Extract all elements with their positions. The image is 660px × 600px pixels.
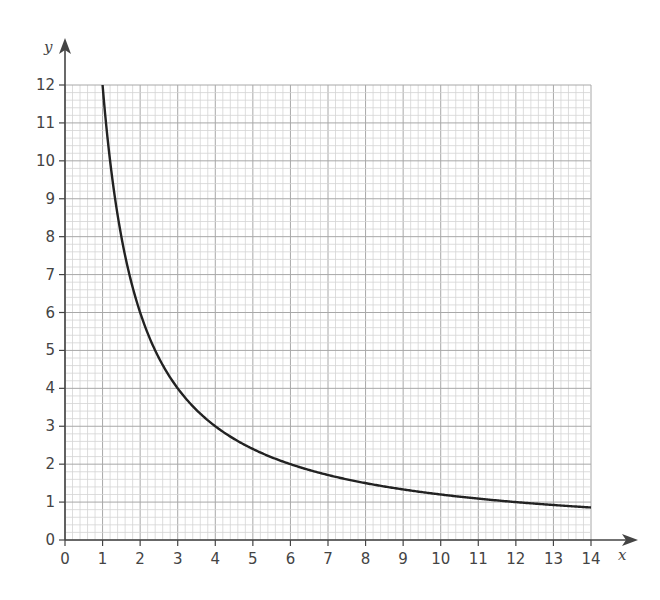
- y-tick-label: 1: [45, 493, 55, 511]
- x-tick-label: 14: [581, 550, 600, 568]
- axes: [59, 38, 638, 546]
- y-tick-label: 4: [45, 379, 55, 397]
- grid: [65, 85, 591, 540]
- x-tick-label: 2: [135, 550, 145, 568]
- x-axis-label: x: [618, 546, 627, 564]
- y-tick-label: 7: [45, 266, 55, 284]
- x-tick-label: 5: [248, 550, 258, 568]
- x-tick-label: 9: [398, 550, 408, 568]
- y-tick-label: 0: [45, 531, 55, 549]
- y-tick-label: 3: [45, 417, 55, 435]
- x-tick-label: 10: [431, 550, 450, 568]
- x-tick-label: 0: [60, 550, 70, 568]
- x-tick-label: 1: [98, 550, 108, 568]
- chart: 012345678910111213140123456789101112 x y: [0, 0, 660, 600]
- x-tick-label: 12: [506, 550, 525, 568]
- x-tick-label: 6: [286, 550, 296, 568]
- y-tick-label: 5: [45, 341, 55, 359]
- curve-series: [103, 85, 591, 508]
- y-tick-label: 6: [45, 304, 55, 322]
- x-tick-label: 7: [323, 550, 333, 568]
- x-tick-label: 4: [211, 550, 221, 568]
- y-tick-label: 10: [36, 152, 55, 170]
- y-tick-label: 11: [36, 114, 55, 132]
- x-tick-label: 3: [173, 550, 183, 568]
- y-tick-label: 9: [45, 190, 55, 208]
- x-tick-label: 11: [469, 550, 488, 568]
- y-tick-label: 8: [45, 228, 55, 246]
- x-tick-label: 13: [544, 550, 563, 568]
- y-axis-label: y: [43, 38, 53, 56]
- y-tick-label: 12: [36, 76, 55, 94]
- y-tick-label: 2: [45, 455, 55, 473]
- x-tick-label: 8: [361, 550, 371, 568]
